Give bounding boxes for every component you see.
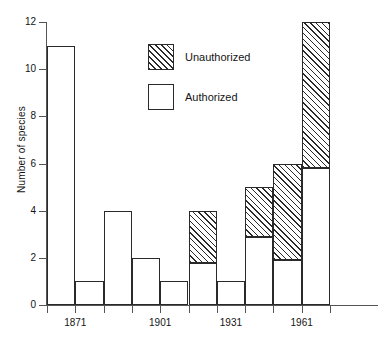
species-authorization-bar-chart: Number of species 024681012 187119011931… xyxy=(0,0,392,345)
bar-segment-unauthorized xyxy=(302,22,330,168)
x-tick-mark xyxy=(245,306,246,313)
bar-segment-unauthorized xyxy=(273,164,301,261)
y-tick-mark xyxy=(39,305,47,306)
legend-item-unauthorized: Unauthorized xyxy=(148,44,250,70)
bar-segment-authorized xyxy=(217,281,245,305)
y-axis-title: Number of species xyxy=(16,80,27,220)
x-tick-mark xyxy=(132,306,133,313)
bar-segment-authorized xyxy=(104,211,132,305)
y-tick-label: 10 xyxy=(8,64,36,74)
y-tick-mark xyxy=(39,22,47,23)
bar-segment-authorized xyxy=(189,263,217,305)
x-tick-mark xyxy=(75,306,76,313)
x-tick-mark xyxy=(273,306,274,313)
bar-segment-authorized xyxy=(75,281,103,305)
y-tick-mark xyxy=(39,164,47,165)
y-tick-label: 2 xyxy=(8,253,36,263)
legend-swatch-authorized-icon xyxy=(148,84,174,110)
y-tick-label: 4 xyxy=(8,206,36,216)
legend-swatch-unauthorized-icon xyxy=(148,44,174,70)
legend-label-authorized: Authorized xyxy=(185,92,238,103)
x-tick-label: 1931 xyxy=(201,317,261,328)
y-tick-label: 0 xyxy=(8,300,36,310)
x-tick-mark xyxy=(160,306,161,313)
x-tick-label: 1901 xyxy=(130,317,190,328)
bar-segment-authorized xyxy=(160,281,188,305)
legend-label-unauthorized: Unauthorized xyxy=(185,52,250,63)
bar-segment-unauthorized xyxy=(245,187,273,237)
bar-segment-authorized xyxy=(47,46,75,305)
bar-segment-unauthorized xyxy=(189,211,217,263)
y-tick-mark xyxy=(39,116,47,117)
x-tick-mark xyxy=(104,306,105,313)
x-axis-line xyxy=(46,305,378,306)
y-tick-label: 6 xyxy=(8,159,36,169)
x-tick-mark xyxy=(189,306,190,313)
x-tick-label: 1961 xyxy=(272,317,332,328)
x-tick-mark xyxy=(302,306,303,313)
y-tick-mark xyxy=(39,69,47,70)
x-tick-mark xyxy=(217,306,218,313)
bar-segment-authorized xyxy=(245,237,273,305)
y-tick-mark xyxy=(39,211,47,212)
y-tick-label: 8 xyxy=(8,111,36,121)
y-tick-label: 12 xyxy=(8,17,36,27)
legend-item-authorized: Authorized xyxy=(148,84,238,110)
bar-segment-authorized xyxy=(132,258,160,305)
x-tick-label: 1871 xyxy=(45,317,105,328)
y-tick-mark xyxy=(39,258,47,259)
x-tick-mark xyxy=(330,306,331,313)
bar-segment-authorized xyxy=(273,260,301,305)
x-tick-mark xyxy=(47,306,48,313)
bar-segment-authorized xyxy=(302,168,330,305)
